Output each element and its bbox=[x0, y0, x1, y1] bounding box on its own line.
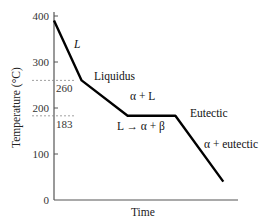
annotation-liquidus: Liquidus bbox=[94, 70, 135, 83]
annotation-alpha-plus-eutectic: α + eutectic bbox=[204, 138, 258, 150]
reference-label: 260 bbox=[56, 82, 73, 94]
y-tick-label: 400 bbox=[33, 10, 50, 22]
y-tick-label: 100 bbox=[33, 148, 50, 160]
y-tick-label: 0 bbox=[44, 194, 50, 206]
annotation-alpha-plus-l: α + L bbox=[130, 90, 155, 102]
y-tick-label: 200 bbox=[33, 102, 50, 114]
annotation-eutectic: Eutectic bbox=[190, 107, 228, 119]
y-tick-label: 300 bbox=[33, 56, 50, 68]
annotation-reaction: L → α + β bbox=[117, 120, 165, 133]
x-axis-label: Time bbox=[131, 206, 155, 218]
cooling-curve-chart: 0100200300400 260183 L Liquidus α + L Eu… bbox=[0, 0, 280, 222]
y-axis-label: Temperature (°C) bbox=[10, 67, 23, 148]
reference-label: 183 bbox=[56, 118, 73, 130]
annotation-liquid: L bbox=[73, 38, 80, 50]
